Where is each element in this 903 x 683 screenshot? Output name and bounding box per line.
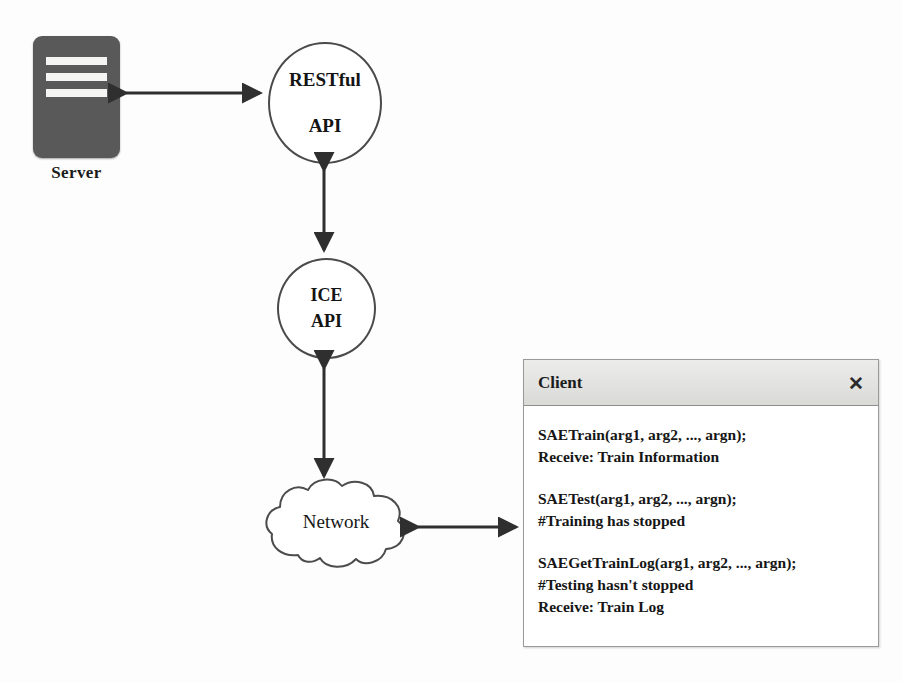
code-line: Receive: Train Information	[538, 446, 864, 468]
arrow-server-to-restful-api	[112, 80, 274, 106]
code-line: SAETest(arg1, arg2, ..., argn);	[538, 488, 864, 510]
arrow-network-to-client	[404, 514, 532, 540]
restful-api-label-line1: RESTful	[289, 69, 361, 91]
close-icon[interactable]: ✕	[848, 373, 864, 392]
code-line: #Testing hasn't stopped	[538, 574, 864, 596]
server-slot-bar	[46, 73, 107, 81]
arrow-ice-api-to-network	[311, 356, 337, 488]
code-line: SAEGetTrainLog(arg1, arg2, ..., argn);	[538, 552, 864, 574]
server-slot-bar	[46, 57, 107, 65]
network-cloud-node: Network	[262, 477, 410, 570]
code-block: SAETest(arg1, arg2, ..., argn); #Trainin…	[538, 488, 864, 532]
code-line: SAETrain(arg1, arg2, ..., argn);	[538, 424, 864, 446]
server-label: Server	[0, 163, 153, 183]
server-rack-icon	[33, 36, 120, 158]
client-window-titlebar[interactable]: Client ✕	[524, 360, 878, 406]
server-slot-bar	[46, 89, 107, 97]
client-window-body: SAETrain(arg1, arg2, ..., argn); Receive…	[524, 406, 878, 628]
code-line: #Training has stopped	[538, 510, 864, 532]
code-line: Receive: Train Log	[538, 596, 864, 618]
client-window-title: Client	[538, 373, 582, 393]
code-block: SAEGetTrainLog(arg1, arg2, ..., argn); #…	[538, 552, 864, 618]
ice-api-label-line1: ICE	[310, 285, 342, 306]
server-node	[33, 36, 120, 158]
arrow-restful-api-to-ice-api	[311, 158, 337, 262]
ice-api-label-line2: API	[311, 311, 342, 332]
ice-api-node: ICE API	[277, 258, 376, 359]
restful-api-node: RESTful API	[268, 42, 382, 164]
client-window: Client ✕ SAETrain(arg1, arg2, ..., argn)…	[523, 359, 879, 647]
diagram-canvas: Server RESTful API ICE API Network	[0, 0, 903, 683]
network-label: Network	[262, 511, 410, 533]
code-block: SAETrain(arg1, arg2, ..., argn); Receive…	[538, 424, 864, 468]
restful-api-label-line2: API	[309, 115, 342, 137]
